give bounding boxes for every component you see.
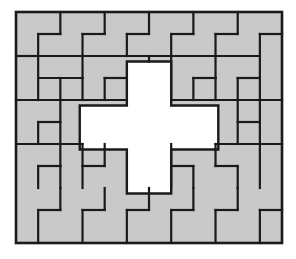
tiling-diagram-svg [0, 0, 296, 259]
tiling-figure [0, 0, 296, 259]
